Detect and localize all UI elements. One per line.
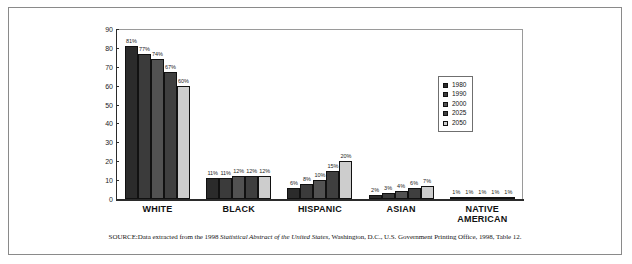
bar [369, 195, 382, 199]
y-axis-tick-label: 40 [87, 120, 113, 127]
bar-value-label: 2% [371, 188, 379, 194]
bar [313, 180, 326, 199]
bar-value-label: 12% [259, 169, 270, 175]
bar [395, 191, 408, 199]
legend-item-label: 2050 [452, 120, 466, 127]
legend-swatch-icon [443, 92, 448, 97]
bar [382, 193, 395, 199]
bar-value-label: 3% [384, 186, 392, 192]
y-axis-tick-label: 30 [87, 139, 113, 146]
legend-swatch-icon [443, 83, 448, 88]
bar [219, 178, 232, 199]
bar-value-label: 12% [246, 169, 257, 175]
source-text-after: , Washington, D.C., U.S. Government Prin… [328, 233, 521, 241]
y-axis-tick-label: 90 [87, 26, 113, 33]
y-axis-tick-mark [116, 48, 119, 49]
bar [245, 176, 258, 199]
y-axis-tick-label: 80 [87, 44, 113, 51]
bar [300, 184, 313, 199]
category-label: WHITE [143, 204, 173, 214]
bar [151, 59, 164, 199]
bar [476, 197, 489, 199]
legend-item-label: 2025 [452, 110, 466, 117]
y-axis-tick-mark [116, 199, 119, 200]
bar-value-label: 20% [340, 154, 351, 160]
bar [138, 54, 151, 199]
bar [489, 197, 502, 199]
source-publication-title: Statistical Abstract of the United State… [220, 233, 328, 241]
bar-value-label: 1% [465, 190, 473, 196]
chart-figure-frame: 0102030405060708090 81%77%74%67%60%WHITE… [8, 7, 622, 255]
bar [502, 197, 515, 199]
y-axis-tick-mark [116, 142, 119, 143]
bar-value-label: 77% [139, 47, 150, 53]
legend-swatch-icon [443, 111, 448, 116]
source-prefix: SOURCE: [109, 233, 138, 241]
bar-value-label: 8% [303, 177, 311, 183]
bar [326, 171, 339, 199]
legend-item-label: 1990 [452, 91, 466, 98]
legend-item-label: 1980 [452, 82, 466, 89]
y-axis-tick-mark [116, 67, 119, 68]
bar-value-label: 7% [423, 179, 431, 185]
source-text-before: Data extracted from the 1998 [138, 233, 220, 241]
source-note: SOURCE:Data extracted from the 1998 Stat… [9, 233, 621, 241]
legend-item: 1990 [443, 90, 466, 99]
legend-item: 2000 [443, 100, 466, 109]
y-axis-tick-mark [116, 29, 119, 30]
y-axis-tick-mark [116, 123, 119, 124]
bar [339, 161, 352, 199]
y-axis-tick-label: 50 [87, 101, 113, 108]
bar-value-label: 1% [491, 190, 499, 196]
legend-item: 1980 [443, 81, 466, 90]
bar [408, 188, 421, 199]
y-axis-tick-mark [116, 180, 119, 181]
chart-legend: 19801990200020252050 [438, 76, 473, 132]
bar-value-label: 6% [290, 181, 298, 187]
bar-value-label: 74% [152, 52, 163, 58]
x-axis-line [116, 199, 524, 201]
bar-value-label: 1% [478, 190, 486, 196]
bar-value-label: 60% [178, 79, 189, 85]
legend-swatch-icon [443, 121, 448, 126]
category-label: HISPANIC [298, 204, 342, 214]
bar-value-label: 1% [452, 190, 460, 196]
bar [164, 72, 177, 199]
bar-value-label: 11% [207, 171, 218, 177]
bar [125, 46, 138, 199]
y-axis-tick-mark [116, 105, 119, 106]
bar-value-label: 67% [165, 65, 176, 71]
bar-value-label: 12% [233, 169, 244, 175]
y-axis-tick-label: 0 [87, 196, 113, 203]
y-axis-tick-label: 20 [87, 158, 113, 165]
y-axis-tick-label: 10 [87, 177, 113, 184]
bar [177, 86, 190, 199]
legend-swatch-icon [443, 102, 448, 107]
category-label: BLACK [222, 204, 255, 214]
y-axis-tick-mark [116, 161, 119, 162]
y-axis-tick-label: 60 [87, 82, 113, 89]
bar [463, 197, 476, 199]
bar-value-label: 15% [327, 164, 338, 170]
bar-group [369, 29, 434, 199]
bar [232, 176, 245, 199]
legend-item: 2025 [443, 109, 466, 118]
bar [287, 188, 300, 199]
legend-item-label: 2000 [452, 101, 466, 108]
bar-value-label: 81% [126, 39, 137, 45]
bar-value-label: 6% [410, 181, 418, 187]
bar [450, 197, 463, 199]
bar [421, 186, 434, 199]
bar [206, 178, 219, 199]
y-axis-tick-mark [116, 86, 119, 87]
y-axis-tick-label: 70 [87, 63, 113, 70]
legend-item: 2050 [443, 119, 466, 128]
bar-value-label: 1% [504, 190, 512, 196]
y-axis: 0102030405060708090 [85, 29, 113, 199]
bar-value-label: 10% [314, 173, 325, 179]
bar-value-label: 4% [397, 184, 405, 190]
category-label: ASIAN [387, 204, 416, 214]
category-label: NATIVEAMERICAN [457, 204, 507, 225]
bar-value-label: 11% [220, 171, 231, 177]
bar [258, 176, 271, 199]
